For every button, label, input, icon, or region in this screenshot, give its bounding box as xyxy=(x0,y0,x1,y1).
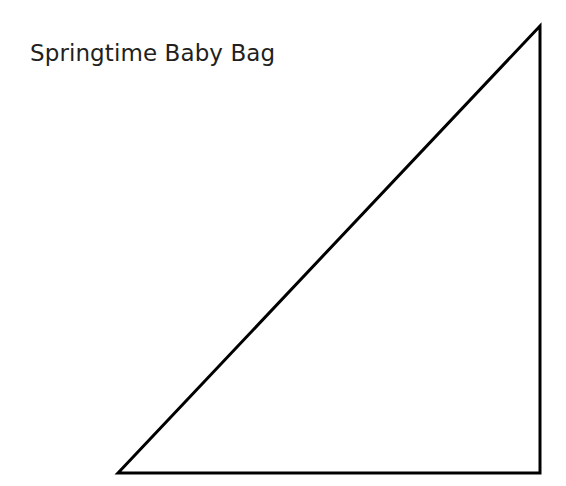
right-triangle-shape xyxy=(118,26,540,473)
pattern-diagram-page: Springtime Baby Bag xyxy=(0,0,566,486)
triangle-figure xyxy=(0,0,566,486)
